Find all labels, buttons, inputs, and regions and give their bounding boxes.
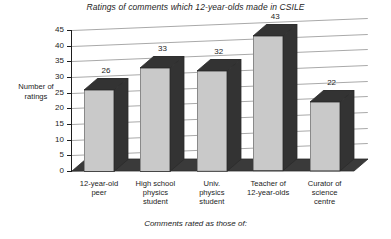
y-axis-tick-label: 25 xyxy=(44,89,64,97)
y-axis-tick-label: 35 xyxy=(44,57,64,65)
category-label-line: physics xyxy=(184,188,240,197)
category-label-line: physics xyxy=(127,188,183,197)
category-label-line: High school xyxy=(127,179,183,188)
y-axis-tick-label: 40 xyxy=(44,42,64,50)
bar-value-label: 22 xyxy=(312,79,352,87)
category-label-line: Teacher of xyxy=(240,179,296,188)
x-axis-category-label: Curator ofsciencecentre xyxy=(297,179,353,207)
y-axis-tick-label: 30 xyxy=(44,73,64,81)
category-label-line: peer xyxy=(71,188,127,197)
category-label-line: 12-year-olds xyxy=(240,188,296,197)
category-label-line: centre xyxy=(297,197,353,206)
y-axis-tick-label: 10 xyxy=(44,136,64,144)
category-label-line: student xyxy=(184,197,240,206)
y-axis-line xyxy=(71,30,72,172)
bar-chart: Ratings of comments which 12-year-olds m… xyxy=(0,0,391,239)
bar-3d-shape xyxy=(197,59,243,173)
bar xyxy=(84,78,128,171)
x-axis-caption: Comments rated as those of: xyxy=(0,219,391,228)
bar xyxy=(253,24,297,171)
bar xyxy=(310,90,354,171)
bar-3d-shape xyxy=(253,24,299,173)
category-label-line: 12-year-old xyxy=(71,179,127,188)
bar-value-label: 33 xyxy=(142,45,182,53)
y-axis-tick-label: 0 xyxy=(44,167,64,175)
x-axis-category-label: Teacher of12-year-olds xyxy=(240,179,296,197)
x-axis-category-label: 12-year-oldpeer xyxy=(71,179,127,197)
bar-3d-shape xyxy=(84,78,130,173)
bar-3d-shape xyxy=(310,90,356,173)
bar-value-label: 43 xyxy=(255,13,295,21)
x-axis-category-label: High schoolphysicsstudent xyxy=(127,179,183,207)
y-axis-tick-label: 45 xyxy=(44,26,64,34)
bar-value-label: 32 xyxy=(199,48,239,56)
bar xyxy=(140,56,184,171)
category-label-line: science xyxy=(297,188,353,197)
gridline xyxy=(72,34,368,47)
y-axis-tick-label: 5 xyxy=(44,151,64,159)
bar-3d-shape xyxy=(140,56,186,173)
category-label-line: Univ. xyxy=(184,179,240,188)
gridline xyxy=(72,18,368,31)
bar-value-label: 26 xyxy=(86,67,126,75)
plot-area: 051015202530354045 2633324322 12-year-ol… xyxy=(0,0,391,239)
bar xyxy=(197,59,241,171)
x-axis-category-label: Univ.physicsstudent xyxy=(184,179,240,207)
category-label-line: Curator of xyxy=(297,179,353,188)
y-axis-tick-label: 20 xyxy=(44,104,64,112)
category-label-line: student xyxy=(127,197,183,206)
y-axis-tick-label: 15 xyxy=(44,120,64,128)
